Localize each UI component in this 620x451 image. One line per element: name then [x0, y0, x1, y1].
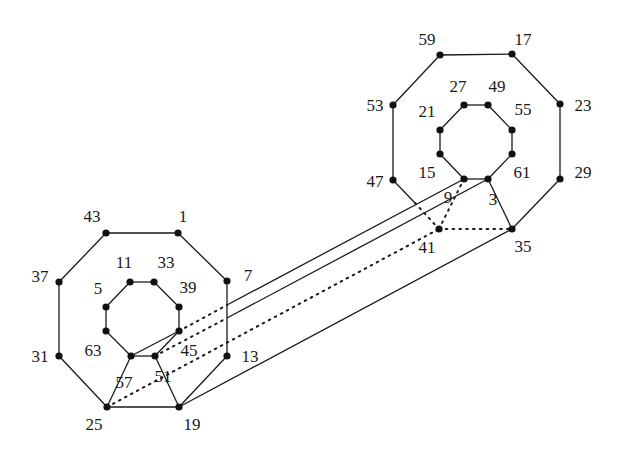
node-label-25: 25 — [86, 415, 103, 434]
graph-node-51 — [151, 352, 158, 359]
graph-node-39 — [175, 303, 182, 310]
edges-layer — [59, 54, 560, 407]
node-label-29: 29 — [575, 163, 592, 182]
graph-node-1 — [174, 229, 181, 236]
graph-node-47 — [389, 176, 396, 183]
edge-9-15 — [440, 154, 464, 179]
edge-59-17 — [440, 54, 512, 55]
graph-node-37 — [55, 278, 62, 285]
node-label-7: 7 — [244, 266, 253, 285]
edge-17-23 — [512, 54, 560, 104]
node-label-57: 57 — [116, 373, 134, 392]
node-label-45: 45 — [181, 341, 198, 360]
node-label-43: 43 — [84, 207, 101, 226]
graph-node-49 — [484, 101, 491, 108]
node-label-23: 23 — [575, 96, 592, 115]
graph-node-43 — [102, 229, 109, 236]
node-label-27: 27 — [450, 77, 468, 96]
node-label-63: 63 — [85, 341, 102, 360]
graph-node-5 — [102, 303, 109, 310]
edge-45-9-hidden — [179, 305, 227, 331]
nodes-layer — [55, 50, 563, 410]
node-label-1: 1 — [179, 207, 188, 226]
node-label-59: 59 — [419, 30, 436, 49]
node-label-3: 3 — [489, 190, 498, 209]
graph-node-55 — [508, 126, 515, 133]
edge-45-51 — [155, 331, 179, 356]
edge-1-7 — [178, 233, 227, 281]
graph-node-29 — [556, 175, 563, 182]
graph-node-15 — [436, 150, 443, 157]
node-label-15: 15 — [419, 163, 436, 182]
node-label-53: 53 — [367, 96, 384, 115]
edge-61-3 — [488, 154, 512, 179]
graph-node-9 — [460, 175, 467, 182]
graph-node-33 — [150, 278, 157, 285]
graph-node-19 — [175, 403, 182, 410]
edge-47-41 — [393, 180, 415, 203]
graph-node-17 — [508, 50, 515, 57]
node-label-19: 19 — [184, 415, 201, 434]
node-label-39: 39 — [180, 278, 197, 297]
graph-node-59 — [436, 51, 443, 58]
node-label-35: 35 — [515, 237, 532, 256]
node-label-51: 51 — [155, 367, 172, 386]
graph-node-11 — [126, 278, 133, 285]
graph-node-31 — [55, 352, 62, 359]
node-label-5: 5 — [94, 279, 103, 298]
graph-diagram: 1713192531374351133394551576359172329354… — [0, 0, 620, 451]
node-label-9: 9 — [444, 188, 453, 207]
graph-node-45 — [175, 327, 182, 334]
graph-node-25 — [103, 403, 110, 410]
edge-37-43 — [59, 233, 106, 282]
node-label-31: 31 — [32, 347, 49, 366]
graph-node-57 — [127, 352, 134, 359]
edge-21-27 — [440, 105, 464, 130]
edge-53-59 — [393, 55, 440, 105]
edge-25-31 — [59, 356, 107, 407]
graph-node-23 — [556, 100, 563, 107]
node-label-37: 37 — [32, 267, 50, 286]
edge-57-63 — [106, 331, 131, 356]
edge-49-55 — [488, 105, 512, 130]
node-label-55: 55 — [515, 100, 532, 119]
node-label-13: 13 — [242, 347, 259, 366]
node-label-41: 41 — [419, 238, 436, 257]
graph-node-13 — [223, 352, 230, 359]
graph-node-63 — [102, 327, 109, 334]
node-label-61: 61 — [514, 163, 531, 182]
edge-29-35 — [512, 179, 560, 229]
node-label-17: 17 — [515, 30, 533, 49]
edge-5-11 — [106, 282, 130, 307]
graph-node-7 — [223, 277, 230, 284]
graph-node-61 — [508, 150, 515, 157]
node-label-47: 47 — [367, 172, 385, 191]
graph-node-35 — [508, 225, 515, 232]
edge-57-45 — [131, 331, 179, 356]
edge-33-39 — [154, 282, 179, 307]
graph-node-27 — [460, 101, 467, 108]
graph-node-21 — [436, 126, 443, 133]
node-label-33: 33 — [158, 253, 175, 272]
node-label-11: 11 — [116, 253, 132, 272]
graph-node-41 — [435, 225, 442, 232]
node-label-49: 49 — [489, 77, 506, 96]
node-label-21: 21 — [419, 102, 436, 121]
graph-node-3 — [484, 175, 491, 182]
edge-19-35 — [179, 229, 512, 407]
graph-node-53 — [389, 101, 396, 108]
